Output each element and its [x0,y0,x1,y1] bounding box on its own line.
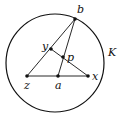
diagram-canvas: b y p z a x K [0,0,128,117]
point-b [73,17,77,21]
point-a [56,74,60,78]
label-a: a [55,79,62,92]
label-x: x [92,70,99,83]
label-y: y [41,40,49,53]
label-b: b [77,3,84,16]
point-p [61,55,65,59]
label-p: p [67,51,74,64]
point-x [86,74,90,78]
segment-a-b [58,19,75,76]
point-y [49,47,53,51]
circle-k [6,14,104,112]
point-z [25,74,29,78]
label-z: z [23,79,30,92]
label-k: K [107,46,117,59]
